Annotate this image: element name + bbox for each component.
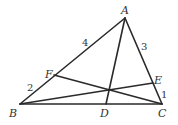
length-ec: 1	[161, 89, 167, 100]
label-c: C	[158, 107, 167, 120]
side-ca	[125, 18, 162, 104]
label-a: A	[120, 4, 129, 17]
label-e: E	[153, 74, 162, 87]
label-f: F	[44, 68, 53, 81]
label-b: B	[8, 107, 17, 120]
length-fb: 2	[27, 82, 33, 93]
triangle-diagram: A B C D E F 4 2 3 1	[0, 0, 178, 125]
length-ae: 3	[141, 41, 147, 52]
length-af: 4	[82, 37, 88, 48]
label-d: D	[99, 107, 109, 120]
cevian-cf	[54, 75, 162, 104]
cevian-be	[20, 83, 153, 104]
